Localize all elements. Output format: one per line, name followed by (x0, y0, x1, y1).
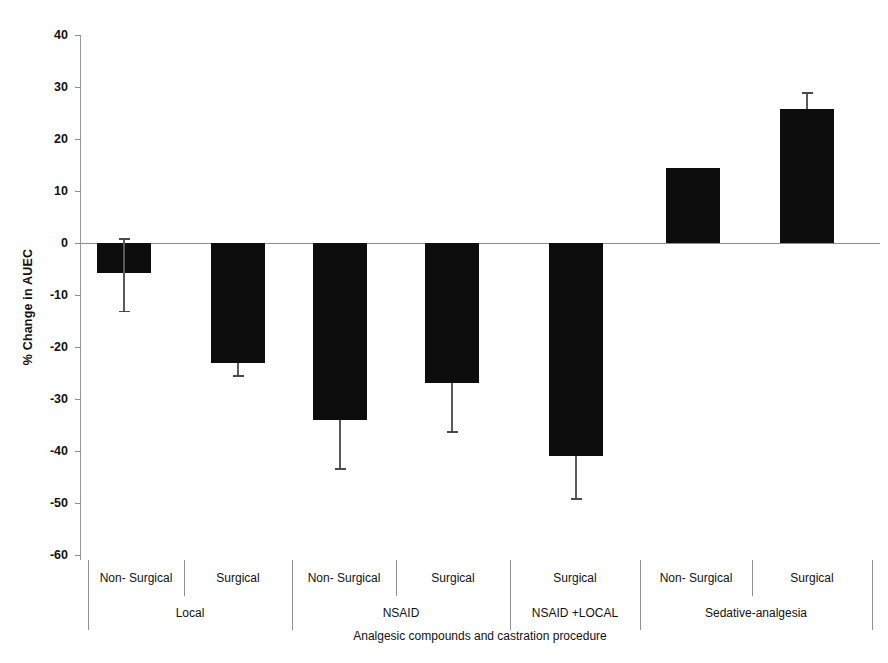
category-separator (396, 560, 397, 596)
error-bar-line (451, 383, 453, 431)
compound-label: NSAID +LOCAL (510, 596, 640, 630)
group-separator (88, 596, 89, 630)
y-tick-label: 0 (24, 236, 68, 250)
error-bar-cap (571, 498, 582, 500)
y-tick-mark (75, 243, 81, 244)
y-tick-label: -30 (24, 392, 68, 406)
y-tick-mark (75, 87, 81, 88)
bar (666, 168, 720, 243)
category-separator (510, 560, 511, 596)
error-bar-line (339, 420, 341, 468)
error-bar-cap (447, 431, 458, 433)
y-tick-mark (75, 347, 81, 348)
y-tick-label: -20 (24, 340, 68, 354)
category-axis: Non- SurgicalSurgicalNon- SurgicalSurgic… (80, 560, 880, 630)
category-separator (752, 560, 753, 596)
bar (549, 243, 603, 456)
error-bar-cap (119, 238, 130, 240)
error-bar-line (806, 92, 808, 109)
y-axis-tick-labels: 403020100-10-20-30-40-50-60 (20, 0, 68, 663)
bar (425, 243, 479, 383)
procedure-label: Surgical (396, 560, 510, 596)
procedure-label: Surgical (510, 560, 640, 596)
category-separator (872, 560, 873, 596)
error-bar-cap (335, 468, 346, 470)
category-separator (184, 560, 185, 596)
compound-label: Sedative-analgesia (640, 596, 872, 630)
y-tick-label: -60 (24, 548, 68, 562)
y-tick-mark (75, 35, 81, 36)
y-tick-mark (75, 555, 81, 556)
y-tick-mark (75, 503, 81, 504)
procedure-label: Surgical (752, 560, 872, 596)
error-bar-line (237, 363, 239, 375)
y-tick-label: 40 (24, 28, 68, 42)
y-tick-label: 20 (24, 132, 68, 146)
y-tick-mark (75, 295, 81, 296)
x-axis-title: Analgesic compounds and castration proce… (80, 629, 880, 643)
error-bar-line (575, 456, 577, 498)
group-separator (872, 596, 873, 630)
y-tick-label: -50 (24, 496, 68, 510)
y-tick-label: 10 (24, 184, 68, 198)
group-separator (640, 596, 641, 630)
plot-area (80, 30, 880, 560)
y-tick-label: -10 (24, 288, 68, 302)
compound-label-row: LocalNSAIDNSAID +LOCALSedative-analgesia (80, 596, 880, 630)
y-tick-label: 30 (24, 80, 68, 94)
zero-baseline (80, 243, 880, 244)
procedure-label: Non- Surgical (292, 560, 396, 596)
bar (211, 243, 265, 363)
bar (780, 109, 834, 243)
category-separator (640, 560, 641, 596)
error-bar-cap (119, 311, 130, 313)
compound-label: NSAID (292, 596, 510, 630)
error-bar-cap (802, 92, 813, 94)
category-separator (292, 560, 293, 596)
bar-chart-figure: % Change in AUEC 403020100-10-20-30-40-5… (0, 0, 888, 663)
error-bar-line (123, 238, 125, 311)
procedure-label: Non- Surgical (88, 560, 184, 596)
category-separator (88, 560, 89, 596)
procedure-label-row: Non- SurgicalSurgicalNon- SurgicalSurgic… (80, 560, 880, 596)
y-tick-mark (75, 191, 81, 192)
procedure-label: Non- Surgical (640, 560, 752, 596)
procedure-label: Surgical (184, 560, 292, 596)
y-tick-mark (75, 451, 81, 452)
error-bar-cap (233, 375, 244, 377)
compound-label: Local (88, 596, 292, 630)
y-axis-line (80, 35, 81, 560)
bar (313, 243, 367, 420)
y-tick-mark (75, 139, 81, 140)
group-separator (510, 596, 511, 630)
y-tick-mark (75, 399, 81, 400)
y-tick-label: -40 (24, 444, 68, 458)
group-separator (292, 596, 293, 630)
